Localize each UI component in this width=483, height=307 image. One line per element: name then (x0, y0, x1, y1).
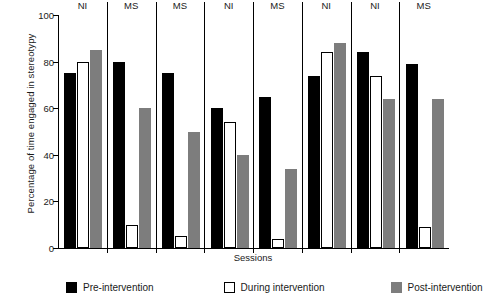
bar-post-group-1 (90, 50, 102, 248)
bar-post-group-7 (383, 99, 395, 248)
group-label: NI (78, 0, 88, 11)
y-tick-label: 40 (43, 149, 54, 160)
legend-label: During intervention (241, 282, 325, 293)
group-separator (204, 2, 205, 249)
bar-pre-group-1 (64, 73, 76, 248)
bar-pre-group-4 (211, 108, 223, 248)
bar-during-group-3 (175, 236, 187, 248)
group-label: MS (417, 0, 431, 11)
y-axis-line (58, 15, 59, 249)
bar-pre-group-5 (259, 97, 271, 248)
bar-post-group-3 (188, 132, 200, 249)
plot-area: 020406080100NIMSMSNIMSNINIMS (58, 15, 448, 248)
bar-during-group-7 (370, 76, 382, 248)
y-tick-label: 100 (38, 10, 54, 21)
x-axis-title: Sessions (58, 252, 448, 263)
bar-during-group-4 (224, 122, 236, 248)
bar-pre-group-2 (113, 62, 125, 248)
black-square-icon (66, 282, 77, 293)
bar-post-group-8 (432, 99, 444, 248)
group-separator (302, 2, 303, 249)
group-label: NI (321, 0, 331, 11)
legend-label: Post-intervention (408, 282, 483, 293)
group-separator (399, 2, 400, 249)
y-tick-label: 60 (43, 103, 54, 114)
group-label: MS (270, 0, 284, 11)
bar-post-group-2 (139, 108, 151, 248)
y-tick-label: 0 (49, 243, 54, 254)
group-separator (253, 2, 254, 249)
y-axis-title: Percentage of time engaged in stereotypy (25, 0, 36, 249)
bar-post-group-5 (285, 169, 297, 248)
bar-pre-group-6 (308, 76, 320, 248)
group-separator (351, 2, 352, 249)
bar-post-group-4 (237, 155, 249, 248)
white-square-icon (224, 282, 235, 293)
group-label: MS (173, 0, 187, 11)
group-label: NI (370, 0, 380, 11)
group-separator (156, 2, 157, 249)
legend-item-during: During intervention (224, 282, 325, 293)
group-label: MS (124, 0, 138, 11)
gray-square-icon (391, 282, 402, 293)
bar-during-group-2 (126, 225, 138, 248)
legend-label: Pre-intervention (83, 282, 154, 293)
legend-item-post: Post-intervention (391, 282, 483, 293)
group-separator (107, 2, 108, 249)
chart-legend: Pre-interventionDuring interventionPost-… (58, 282, 450, 293)
bar-during-group-5 (272, 239, 284, 248)
bar-during-group-6 (321, 52, 333, 248)
bar-during-group-8 (419, 227, 431, 248)
bar-pre-group-8 (406, 64, 418, 248)
y-tick-label: 20 (43, 196, 54, 207)
bar-pre-group-7 (357, 52, 369, 248)
bar-during-group-1 (77, 62, 89, 248)
group-label: NI (224, 0, 234, 11)
legend-item-pre: Pre-intervention (66, 282, 154, 293)
bar-post-group-6 (334, 43, 346, 248)
bar-pre-group-3 (162, 73, 174, 248)
y-tick-label: 80 (43, 56, 54, 67)
